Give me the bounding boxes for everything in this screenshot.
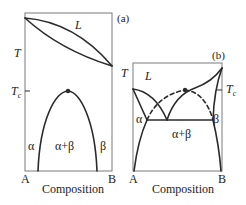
phase-diagrams: L (a) T Tc α α+β β A B Composition L (b) <box>0 0 246 205</box>
panel-a-y-label: T <box>14 46 22 60</box>
panel-b-x-right-label: B <box>218 172 226 186</box>
panel-a-solidus <box>25 18 112 66</box>
panel-b-critical-point <box>183 88 187 92</box>
panel-a-x-left-label: A <box>21 172 30 186</box>
panel-a-tag: (a) <box>117 12 130 25</box>
panel-b-liquid-label: L <box>144 69 152 83</box>
panel-b: L (b) T Tc α α+β β A B Composition <box>121 49 237 196</box>
panel-a-x-label: Composition <box>42 182 104 196</box>
panel-a-miscibility-dome <box>38 91 97 171</box>
panel-b-tag: (b) <box>212 49 225 62</box>
panel-a-alpha-beta-label: α+β <box>55 139 74 153</box>
panel-a-liquid-label: L <box>74 18 82 32</box>
panel-b-beta-label: β <box>213 112 219 126</box>
panel-a-tc-label: Tc <box>11 84 22 100</box>
panel-b-alpha-solvus <box>134 120 147 171</box>
panel-b-alpha-label: α <box>136 112 143 126</box>
panel-b-y-label: T <box>121 66 129 80</box>
panel-b-x-left-label: A <box>129 172 138 186</box>
panel-b-x-label: Composition <box>152 182 214 196</box>
panel-a-critical-point <box>66 89 70 93</box>
panel-a-x-right-label: B <box>108 172 116 186</box>
panel-a-alpha-label: α <box>28 139 35 153</box>
panel-a-beta-label: β <box>100 139 106 153</box>
panel-b-alpha-beta-label: α+β <box>172 127 191 141</box>
panel-a-liquidus <box>25 18 112 66</box>
panel-b-beta-solvus <box>213 120 221 171</box>
panel-b-metastable-dome-left <box>147 90 185 120</box>
panel-b-tc-label: Tc <box>226 82 237 98</box>
panel-a: L (a) T Tc α α+β β A B Composition <box>11 12 130 196</box>
panel-b-metastable-dome-right <box>185 90 213 120</box>
